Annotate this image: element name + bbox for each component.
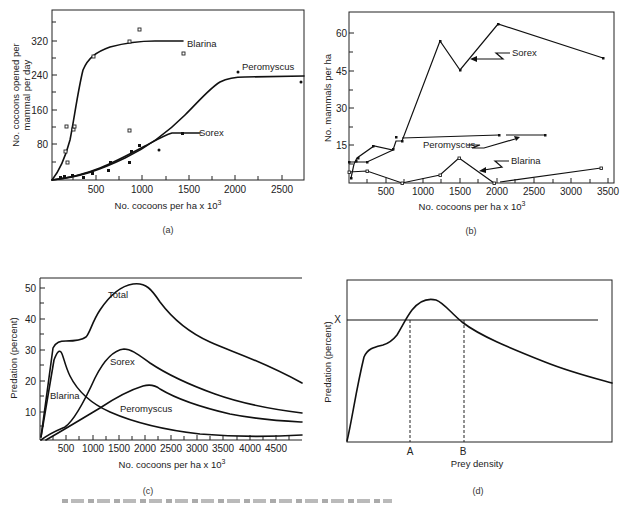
panel-b-xtick: 1500 — [449, 186, 472, 197]
panel-c-peromyscus-curve — [46, 385, 302, 440]
panel-b-blarina-arrowhead — [479, 167, 486, 173]
panel-c-label-sorex: Sorex — [110, 356, 135, 367]
panel-c-xtick: 500 — [58, 443, 75, 454]
panel-b-ytick: 15 — [336, 140, 348, 151]
panel-c-ytick: 30 — [25, 345, 37, 356]
panel-b-markers — [348, 23, 605, 185]
panel-a-xtick: 2000 — [224, 184, 247, 195]
panel-a-x-ticks — [73, 175, 282, 180]
panel-c-xtick: 3500 — [212, 443, 235, 454]
panel-c-xtick: 2500 — [160, 443, 183, 454]
panel-b-xtick: 2000 — [486, 186, 509, 197]
panel-a-y-axis-label: No. cocoons opened per mammal per day — [10, 43, 32, 147]
panel-b-sorex-line — [351, 24, 603, 178]
panel-a-label-peromyscus: Peromyscus — [242, 61, 295, 72]
panel-b-peromyscus-line-2 — [402, 135, 499, 138]
figure-caption-fragment — [62, 499, 392, 503]
panel-a-xtick: 500 — [88, 184, 105, 195]
panel-a-peromyscus-curve — [52, 76, 304, 180]
panel-b-peromyscus-arrowhead — [514, 136, 520, 141]
panel-a-frame — [52, 10, 304, 180]
panel-c-ytick: 20 — [25, 376, 37, 387]
panel-c-y-ticks — [40, 288, 45, 426]
panel-a-ytick: 240 — [31, 70, 48, 81]
panel-b-xtick: 1000 — [412, 186, 435, 197]
panel-a-blarina-curve — [52, 41, 183, 180]
panel-b-x-axis-label: No. cocoons per ha x 103 — [419, 200, 526, 212]
panel-b-xtick: 3500 — [597, 186, 620, 197]
panel-a-peromyscus-points — [158, 71, 303, 152]
panel-a-xtick: 1000 — [131, 184, 154, 195]
panel-c-caption: (c) — [143, 486, 154, 496]
panel-b-xtick: 3000 — [560, 186, 583, 197]
panel-c-xtick: 4500 — [265, 443, 288, 454]
panel-a-label-blarina: Blarina — [187, 38, 217, 49]
panel-c-axes — [40, 278, 302, 440]
panel-b: 60 45 30 15 500 1000 1500 2000 2500 3000… — [322, 12, 620, 236]
panel-a-ytick: 160 — [31, 105, 48, 116]
panel-c-xtick: 3000 — [186, 443, 209, 454]
panel-c-ytick: 50 — [25, 283, 37, 294]
panel-b-caption: (b) — [466, 226, 477, 236]
panel-a-sorex-curve — [52, 133, 200, 180]
panel-b-blarina-arrow — [484, 161, 509, 170]
panel-c-ytick: 10 — [25, 407, 37, 418]
figure-canvas: 320 240 160 80 500 1000 1500 2000 2500 N… — [0, 0, 620, 506]
panel-b-xtick: 2500 — [523, 186, 546, 197]
panel-a-label-sorex: Sorex — [199, 127, 224, 138]
panel-b-blarina-line-2 — [500, 168, 601, 182]
panel-c-label-blarina: Blarina — [50, 390, 80, 401]
panel-d-x-axis-label: Prey density — [451, 458, 504, 469]
panel-a-blarina-points — [64, 28, 185, 164]
panel-b-sorex-arrow — [475, 53, 510, 59]
panel-a-y-ticks — [52, 22, 57, 162]
panel-d-ytick-x: X — [334, 314, 341, 325]
panel-c-xtick: 1000 — [82, 443, 105, 454]
panel-d-xtick-a: A — [407, 446, 414, 457]
panel-b-y-ticks — [349, 33, 354, 164]
panel-a-sorex-points — [59, 132, 184, 179]
panel-c: 50 40 30 20 10 500 1000 1500 — [8, 278, 302, 496]
panel-d-xtick-b: B — [460, 446, 467, 457]
panel-b-label-blarina: Blarina — [511, 155, 541, 166]
panel-c-label-total: Total — [108, 289, 128, 300]
panel-c-x-axis-label: No. cocoons per ha x 103 — [119, 458, 226, 470]
panel-d-frame — [347, 280, 612, 442]
panel-b-y-axis-label: No. mammals per ha — [322, 53, 333, 142]
panel-c-xtick: 4000 — [239, 443, 262, 454]
panel-b-ytick: 45 — [336, 66, 348, 77]
panel-a-caption: (a) — [163, 225, 174, 235]
panel-c-y-axis-label: Predation (percent) — [8, 317, 19, 398]
panel-d-caption: (d) — [473, 486, 484, 496]
panel-b-ytick: 60 — [336, 28, 348, 39]
panel-c-ytick: 40 — [25, 314, 37, 325]
panel-a-xtick: 1500 — [178, 184, 201, 195]
panel-a-xtick: 2500 — [271, 184, 294, 195]
svg-text:mammal per day: mammal per day — [21, 59, 32, 130]
panel-c-xtick: 2000 — [134, 443, 157, 454]
panel-c-label-peromyscus: Peromyscus — [120, 403, 173, 414]
panel-b-blarina-line — [349, 158, 494, 183]
panel-a: 320 240 160 80 500 1000 1500 2000 2500 N… — [10, 10, 304, 235]
panel-d-y-axis-label: Predation (percent) — [322, 321, 333, 402]
panel-b-frame — [349, 12, 614, 183]
panel-b-xtick: 500 — [378, 186, 395, 197]
panel-c-total-curve — [41, 284, 302, 437]
panel-c-xtick: 1500 — [108, 443, 131, 454]
panel-d: X A B Prey density Predation (percent) (… — [322, 280, 612, 496]
panel-b-ytick: 30 — [336, 103, 348, 114]
panel-a-ytick: 320 — [31, 36, 48, 47]
panel-b-label-sorex: Sorex — [512, 47, 537, 58]
svg-text:No. cocoons opened per: No. cocoons opened per — [10, 43, 21, 147]
panel-a-x-axis-label: No. cocoons per ha x 103 — [115, 199, 222, 211]
panel-a-ytick: 80 — [37, 139, 49, 150]
